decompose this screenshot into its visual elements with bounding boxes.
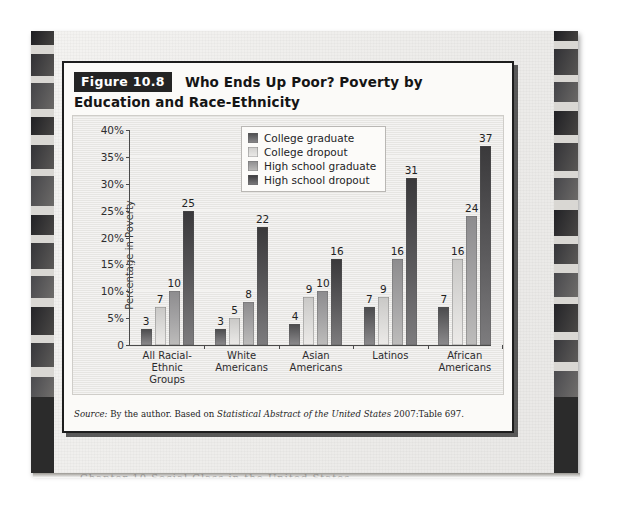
bar-fill [215,329,226,345]
x-axis-category-line: Americans [428,362,502,374]
x-axis-category-line: Americans [279,362,353,374]
bar[interactable]: 25 [183,211,194,345]
bar-fill [229,318,240,345]
x-axis-category-line: White [204,350,278,362]
x-axis-tick-mark [353,345,354,349]
y-axis-tick-label: 35% [101,151,124,163]
bar[interactable]: 9 [303,297,314,345]
y-axis-tick-label: 5% [107,312,124,324]
legend-item[interactable]: College dropout [248,145,376,159]
bar-fill [303,297,314,345]
bar[interactable]: 7 [155,307,166,345]
y-axis-tick-mark [126,345,130,346]
bar[interactable]: 16 [331,259,342,345]
bar-value-label: 31 [405,164,418,176]
y-axis-tick-label: 20% [101,232,124,244]
source-text-part2: 2007:Table 697. [391,409,464,419]
legend-swatch [248,133,258,143]
figure-box: Figure 10.8 Who Ends Up Poor? Poverty by… [62,61,514,433]
bar-group: 7162437 [428,130,502,345]
bar-fill [317,291,328,345]
figure-header: Figure 10.8 Who Ends Up Poor? Poverty by… [64,63,512,117]
figure-number-badge: Figure 10.8 [74,72,172,92]
legend-label: College graduate [264,132,354,144]
bar[interactable]: 3 [215,329,226,345]
bar-value-label: 8 [245,288,252,300]
bar-value-label: 24 [465,202,478,214]
bar-value-label: 10 [316,277,329,289]
bar[interactable]: 7 [438,307,449,345]
x-axis-category-line: Latinos [353,350,427,362]
bar-fill [169,291,180,345]
bar-value-label: 16 [451,245,464,257]
bar[interactable]: 4 [289,324,300,346]
bar-fill [364,307,375,345]
bar-value-label: 9 [306,283,313,295]
x-axis-category-label: WhiteAmericans [204,350,278,374]
bar[interactable]: 31 [406,178,417,345]
bar[interactable]: 7 [364,307,375,345]
bar[interactable]: 10 [169,291,180,345]
bar-value-label: 4 [292,310,299,322]
x-axis-category-line: Asian [279,350,353,362]
x-axis-tick-mark [428,345,429,349]
y-axis-tick-label: 10% [101,285,124,297]
x-axis-category-line: Groups [130,374,204,386]
bar[interactable]: 16 [452,259,463,345]
bar[interactable]: 22 [257,227,268,345]
bar[interactable]: 9 [378,297,389,345]
chart-panel: Percentage in Poverty 05%10%15%20%25%30%… [72,115,504,395]
bar-fill [378,297,389,345]
bar-fill [155,307,166,345]
scan-edge-right [554,31,578,473]
legend-item[interactable]: High school dropout [248,173,376,187]
bar-fill [480,146,491,345]
bar-fill [183,211,194,345]
legend-swatch [248,175,258,185]
source-label: Source: [74,409,108,419]
bar-fill [243,302,254,345]
x-axis-category-line: All Racial-Ethnic [130,350,204,374]
x-axis-category-label: AsianAmericans [279,350,353,374]
bar-value-label: 25 [182,197,195,209]
legend-label: High school dropout [264,174,370,186]
bar-value-label: 22 [256,213,269,225]
legend-item[interactable]: High school graduate [248,159,376,173]
bar-value-label: 10 [168,277,181,289]
figure-source-row: Source: By the author. Based on Statisti… [64,397,512,431]
x-axis-category-line: African [428,350,502,362]
legend-swatch [248,161,258,171]
bar[interactable]: 8 [243,302,254,345]
bar-fill [289,324,300,346]
legend-item[interactable]: College graduate [248,131,376,145]
y-axis-tick-label: 15% [101,258,124,270]
bar[interactable]: 10 [317,291,328,345]
bar-fill [452,259,463,345]
y-axis-tick-label: 30% [101,178,124,190]
chart-legend: College graduateCollege dropoutHigh scho… [241,126,386,192]
x-axis-category-line: Americans [204,362,278,374]
bar-fill [438,307,449,345]
y-axis-tick-label: 25% [101,205,124,217]
x-axis-tick-mark [279,345,280,349]
bar-value-label: 37 [479,132,492,144]
bar-fill [392,259,403,345]
bar-value-label: 3 [217,315,224,327]
x-axis-tick-mark [204,345,205,349]
page-cutoff-text: Chapter 10 Social Class in the United St… [80,472,550,486]
bar-value-label: 5 [231,304,238,316]
bar[interactable]: 24 [466,216,477,345]
bar-fill [406,178,417,345]
x-axis-tick-mark [502,345,503,349]
bar-value-label: 9 [380,283,387,295]
bar-fill [331,259,342,345]
bar-value-label: 7 [366,293,373,305]
bar[interactable]: 16 [392,259,403,345]
bar[interactable]: 5 [229,318,240,345]
bar[interactable]: 3 [141,329,152,345]
y-axis-tick-label: 40% [101,124,124,136]
bar[interactable]: 37 [480,146,491,345]
x-axis-category-label: AfricanAmericans [428,350,502,374]
y-axis-tick-label: 0 [117,339,124,351]
bar-value-label: 7 [440,293,447,305]
